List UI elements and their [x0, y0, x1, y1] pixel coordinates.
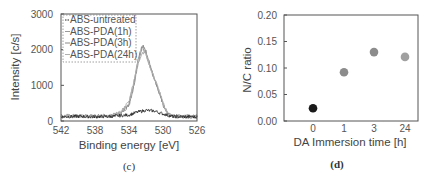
c-caption: (c) — [123, 160, 136, 173]
d-y-tick-label: 0.15 — [258, 36, 278, 47]
d-point-3h — [370, 48, 379, 57]
c-legend: ABS-untreatedABS-PDA(1h)ABS-PDA(3h)ABS-P… — [63, 14, 137, 62]
d-plot-frame — [284, 15, 418, 121]
c-legend-label: ABS-PDA(3h) — [70, 37, 132, 48]
d-y-ticks: 0.000.050.100.150.20 — [258, 10, 287, 127]
d-point-1h — [340, 68, 349, 77]
d-y-axis-label: N/C ratio — [241, 47, 253, 92]
c-x-tick-label: 538 — [87, 125, 104, 136]
d-x-tick-label: 0 — [310, 123, 316, 134]
c-y-axis-label: Intensity [c/s] — [9, 33, 21, 100]
c-y-tick-label: 1000 — [31, 80, 54, 91]
d-point-0h — [309, 104, 318, 113]
figure: 0100020003000 542538534530526 Binding en… — [0, 0, 431, 178]
d-y-tick-label: 0.00 — [258, 116, 278, 127]
d-caption: (d) — [330, 158, 344, 171]
c-legend-label: ABS-PDA(1h) — [70, 26, 132, 37]
d-point-24h — [401, 53, 410, 62]
d-x-tick-label: 1 — [341, 123, 347, 134]
panel-c-spectrum: 0100020003000 542538534530526 Binding en… — [9, 9, 206, 174]
c-y-tick-label: 2000 — [31, 44, 54, 55]
panel-d-scatter: 0.000.050.100.150.20 01324 DA Immersion … — [241, 10, 418, 172]
c-x-tick-label: 526 — [189, 125, 206, 136]
d-x-ticks: 01324 — [310, 123, 411, 134]
c-x-ticks: 542538534530526 — [53, 125, 206, 136]
d-y-tick-label: 0.20 — [258, 10, 278, 21]
c-y-tick-label: 3000 — [31, 9, 54, 20]
d-x-tick-label: 3 — [371, 123, 377, 134]
c-x-tick-label: 542 — [53, 125, 70, 136]
d-y-tick-label: 0.10 — [258, 63, 278, 74]
d-y-tick-label: 0.05 — [258, 89, 278, 100]
d-points — [309, 48, 410, 113]
c-y-ticks: 0100020003000 — [31, 9, 64, 127]
c-x-tick-label: 534 — [121, 125, 138, 136]
d-x-axis-label: DA Immersion time [h] — [293, 136, 406, 148]
d-x-tick-label: 24 — [399, 123, 411, 134]
c-x-tick-label: 530 — [155, 125, 172, 136]
c-x-axis-label: Binding energy [eV] — [79, 139, 179, 151]
c-legend-label: ABS-PDA(24h) — [70, 49, 137, 60]
c-legend-label: ABS-untreated — [70, 14, 136, 25]
